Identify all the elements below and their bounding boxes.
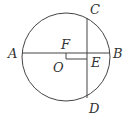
- label-e: E: [90, 55, 101, 70]
- label-c: C: [90, 2, 100, 17]
- circle-diagram: A B C D E F O: [0, 0, 126, 119]
- label-f: F: [60, 37, 71, 52]
- label-d: D: [88, 101, 100, 116]
- label-o: O: [53, 60, 64, 75]
- perpendicular-segment-of: [66, 53, 87, 59]
- label-a: A: [7, 46, 17, 61]
- label-b: B: [112, 46, 123, 61]
